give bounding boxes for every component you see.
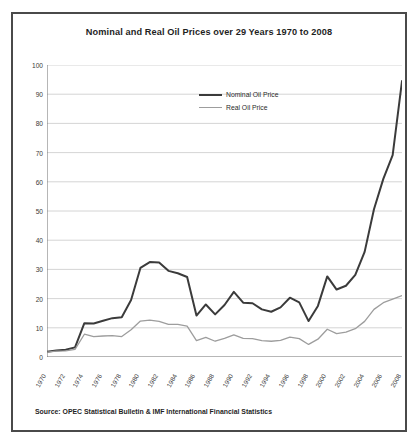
x-tick-label: 1974: [71, 373, 84, 389]
x-tick-label: 1972: [53, 373, 66, 389]
legend-line-icon-nominal: [199, 94, 222, 96]
legend-label-nominal: Nominal Oil Price: [226, 91, 279, 98]
x-tick-label: 2000: [314, 373, 327, 389]
chart-figure: Nominal and Real Oil Prices over 29 Year…: [0, 0, 419, 445]
y-axis: 0102030405060708090100: [13, 65, 43, 357]
legend-line-icon-real: [199, 107, 222, 108]
y-tick-label: 70: [36, 149, 43, 156]
x-tick-label: 2002: [333, 373, 346, 389]
y-tick-label: 10: [36, 324, 43, 331]
x-tick-label: 1984: [165, 373, 178, 389]
y-tick-label: 60: [36, 178, 43, 185]
x-tick-label: 1992: [240, 373, 253, 389]
x-tick-label: 2004: [352, 373, 365, 389]
y-tick-label: 30: [36, 266, 43, 273]
x-tick-label: 1980: [127, 373, 140, 389]
source-note: Source: OPEC Statistical Bulletin & IMF …: [35, 408, 272, 415]
x-tick-label: 1990: [221, 373, 234, 389]
x-tick-label: 2006: [370, 373, 383, 389]
x-tick-label: 1970: [34, 373, 47, 389]
series-line: [47, 81, 402, 352]
x-tick-label: 1986: [183, 373, 196, 389]
legend-item-real: Real Oil Price: [199, 101, 349, 114]
x-tick-label: 1982: [146, 373, 159, 389]
x-tick-label: 2008: [389, 373, 402, 389]
chart-frame: Nominal and Real Oil Prices over 29 Year…: [11, 12, 407, 432]
legend-label-real: Real Oil Price: [226, 104, 268, 111]
y-tick-label: 50: [36, 208, 43, 215]
legend-item-nominal: Nominal Oil Price: [199, 88, 349, 101]
y-tick-label: 80: [36, 120, 43, 127]
x-tick-label: 1994: [258, 373, 271, 389]
y-tick-label: 100: [32, 62, 43, 69]
x-tick-label: 1976: [90, 373, 103, 389]
chart-legend: Nominal Oil Price Real Oil Price: [199, 88, 349, 114]
y-tick-label: 20: [36, 295, 43, 302]
x-tick-label: 1996: [277, 373, 290, 389]
x-tick-label: 1978: [109, 373, 122, 389]
x-axis: 1970197219741976197819801982198419861988…: [47, 359, 402, 399]
x-tick-label: 1998: [296, 373, 309, 389]
y-tick-label: 0: [39, 354, 43, 361]
y-tick-label: 40: [36, 237, 43, 244]
x-tick-label: 1988: [202, 373, 215, 389]
page-title: Nominal and Real Oil Prices over 29 Year…: [13, 27, 405, 37]
y-tick-label: 90: [36, 91, 43, 98]
series-lines: [47, 81, 402, 352]
